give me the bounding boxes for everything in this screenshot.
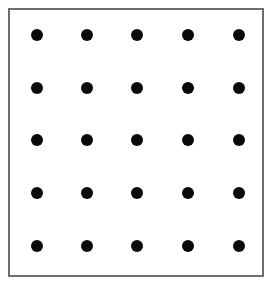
grid-dot (81, 29, 93, 41)
grid-dot (81, 240, 93, 252)
grid-dot (31, 29, 43, 41)
grid-dot (182, 29, 194, 41)
grid-dot (31, 134, 43, 146)
grid-dot (81, 134, 93, 146)
grid-dot (182, 134, 194, 146)
grid-dot (31, 82, 43, 94)
grid-dot (31, 240, 43, 252)
grid-dot (131, 29, 143, 41)
grid-dot (233, 134, 245, 146)
grid-dot (131, 134, 143, 146)
grid-dot (131, 240, 143, 252)
grid-dot (233, 82, 245, 94)
grid-dot (81, 187, 93, 199)
grid-dot (233, 29, 245, 41)
grid-dot (81, 82, 93, 94)
grid-dot (131, 82, 143, 94)
grid-dot (31, 187, 43, 199)
grid-dot (182, 82, 194, 94)
grid-dot (233, 240, 245, 252)
grid-dot (131, 187, 143, 199)
grid-dot (182, 240, 194, 252)
grid-dot (182, 187, 194, 199)
grid-dot (233, 187, 245, 199)
